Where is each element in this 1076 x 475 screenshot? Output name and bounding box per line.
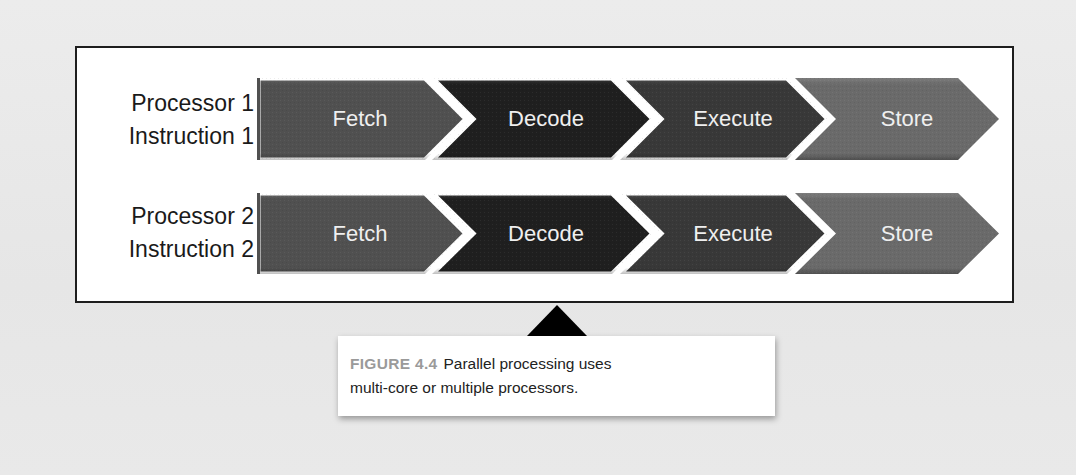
stage-label-execute: Execute bbox=[668, 221, 798, 247]
caption-line-1: FIGURE 4.4Parallel processing uses bbox=[350, 352, 775, 376]
stage-label-fetch: Fetch bbox=[300, 106, 420, 132]
stage-label-store: Store bbox=[852, 106, 962, 132]
figure-number: FIGURE 4.4 bbox=[350, 355, 437, 372]
caption-text-line2: multi-core or multiple processors. bbox=[350, 376, 775, 400]
stage-label-decode: Decode bbox=[481, 221, 611, 247]
caption-pointer-triangle bbox=[527, 305, 587, 336]
caption-text-line1: Parallel processing uses bbox=[443, 355, 611, 372]
stage-label-store: Store bbox=[852, 221, 962, 247]
stage-label-fetch: Fetch bbox=[300, 221, 420, 247]
figure-caption: FIGURE 4.4Parallel processing uses multi… bbox=[338, 336, 775, 416]
stage-label-execute: Execute bbox=[668, 106, 798, 132]
stage-label-decode: Decode bbox=[481, 106, 611, 132]
